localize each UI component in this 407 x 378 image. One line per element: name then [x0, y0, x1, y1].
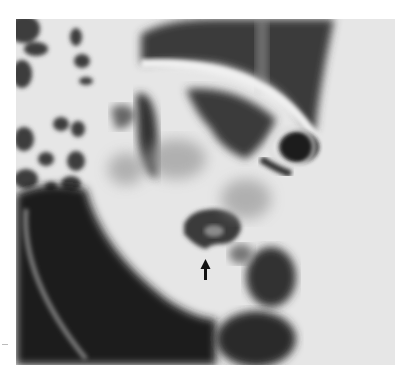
radiograph-image [16, 19, 395, 365]
radiograph-drawing [16, 19, 395, 365]
edge-tick-mark [2, 344, 8, 345]
